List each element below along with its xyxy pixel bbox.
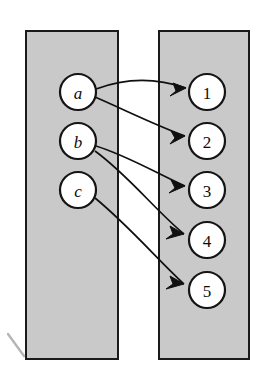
node-label-a: a xyxy=(74,84,83,103)
node-b[interactable]: b xyxy=(60,123,96,159)
node-label-3: 3 xyxy=(203,182,212,201)
node-label-1: 1 xyxy=(203,84,212,103)
mapping-diagram: abc 12345 xyxy=(0,0,261,371)
node-label-5: 5 xyxy=(203,282,212,301)
node-4[interactable]: 4 xyxy=(189,222,225,258)
node-5[interactable]: 5 xyxy=(189,272,225,308)
node-label-2: 2 xyxy=(203,133,212,152)
node-label-4: 4 xyxy=(203,232,212,251)
node-label-c: c xyxy=(74,182,82,201)
node-2[interactable]: 2 xyxy=(189,123,225,159)
node-a[interactable]: a xyxy=(60,74,96,110)
node-label-b: b xyxy=(74,133,83,152)
domain-node-group: abc xyxy=(60,74,96,208)
node-3[interactable]: 3 xyxy=(189,172,225,208)
mapping-diagram-canvas: abc 12345 xyxy=(0,0,261,371)
node-1[interactable]: 1 xyxy=(189,74,225,110)
node-c[interactable]: c xyxy=(60,172,96,208)
